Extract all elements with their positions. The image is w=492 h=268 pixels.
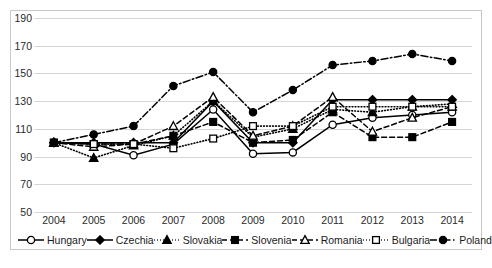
point-bulgaria-2010	[289, 123, 296, 130]
legend-marker-czechia	[96, 236, 104, 244]
point-bulgaria-2006	[130, 141, 137, 148]
legend-item-bulgaria[interactable]: Bulgaria	[363, 234, 431, 246]
point-bulgaria-2009	[250, 123, 257, 130]
y-tick-label-150: 150	[14, 67, 32, 79]
legend-item-poland[interactable]: Poland	[430, 234, 492, 246]
legend-item-hungary[interactable]: Hungary	[18, 234, 87, 246]
point-romania-2008	[209, 93, 217, 101]
legend-item-slovakia[interactable]: Slovakia	[154, 234, 223, 246]
legend-item-romania[interactable]: Romania	[292, 234, 363, 246]
y-tick-label-90: 90	[20, 151, 32, 163]
point-poland-2013	[409, 50, 416, 57]
chart-legend: HungaryCzechiaSlovakiaSloveniaRomaniaBul…	[12, 232, 480, 248]
point-poland-2012	[369, 57, 376, 64]
y-tick-label-50: 50	[20, 206, 32, 218]
chart-figure: 507090110130150170190 200420052006200720…	[0, 0, 492, 268]
legend-swatch-open-triangle-icon	[292, 234, 318, 246]
y-tick-label-110: 110	[15, 123, 32, 135]
legend-marker-slovenia	[232, 237, 239, 244]
x-tick-label-2004: 2004	[42, 214, 65, 226]
legend-swatch-open-circle-icon	[18, 234, 44, 246]
legend-swatch-filled-triangle-icon	[154, 234, 180, 246]
point-slovenia-2010	[289, 137, 296, 144]
point-slovenia-2013	[409, 134, 416, 141]
legend-item-czechia[interactable]: Czechia	[87, 234, 154, 246]
legend-label: Bulgaria	[392, 234, 431, 246]
point-poland-2007	[170, 82, 177, 89]
x-tick-label-2011: 2011	[321, 214, 344, 226]
point-romania-2012	[368, 127, 376, 135]
y-tick-label-130: 130	[14, 95, 32, 107]
point-poland-2004	[50, 139, 57, 146]
point-bulgaria-2011	[329, 103, 336, 110]
point-poland-2014	[448, 57, 455, 64]
y-axis: 507090110130150170190	[10, 18, 32, 212]
series-canvas	[34, 18, 472, 212]
point-bulgaria-2012	[369, 103, 376, 110]
point-bulgaria-2013	[409, 103, 416, 110]
y-tick-label-70: 70	[20, 178, 32, 190]
point-poland-2006	[130, 122, 137, 129]
legend-label: Poland	[459, 234, 492, 246]
point-bulgaria-2008	[210, 135, 217, 142]
point-poland-2010	[289, 86, 296, 93]
point-bulgaria-2007	[170, 145, 177, 152]
point-poland-2005	[90, 131, 97, 138]
point-romania-2007	[169, 122, 177, 130]
x-axis: 2004200520062007200820092010201120122013…	[34, 214, 472, 230]
x-tick-label-2005: 2005	[82, 214, 105, 226]
point-poland-2008	[210, 68, 217, 75]
legend-marker-poland	[440, 236, 447, 243]
legend-label: Hungary	[47, 234, 87, 246]
point-hungary-2010	[289, 149, 296, 156]
legend-label: Czechia	[116, 234, 154, 246]
x-tick-label-2006: 2006	[122, 214, 145, 226]
x-tick-label-2013: 2013	[401, 214, 424, 226]
legend-marker-slovakia	[162, 236, 170, 244]
point-hungary-2011	[329, 121, 336, 128]
y-tick-label-190: 190	[14, 12, 32, 24]
point-poland-2009	[249, 109, 256, 116]
x-tick-label-2008: 2008	[201, 214, 224, 226]
point-slovenia-2014	[449, 119, 456, 126]
point-bulgaria-2005	[90, 141, 97, 148]
legend-item-slovenia[interactable]: Slovenia	[222, 234, 291, 246]
point-romania-2011	[328, 93, 336, 101]
legend-swatch-filled-circle-icon	[430, 234, 456, 246]
y-tick-label-170: 170	[14, 40, 32, 52]
plot-area	[34, 18, 472, 212]
legend-label: Slovenia	[251, 234, 291, 246]
legend-swatch-filled-diamond-icon	[87, 234, 113, 246]
point-slovenia-2008	[210, 119, 217, 126]
point-hungary-2006	[130, 152, 137, 159]
x-tick-label-2012: 2012	[361, 214, 384, 226]
point-hungary-2008	[210, 106, 217, 113]
x-tick-label-2014: 2014	[440, 214, 463, 226]
point-bulgaria-2014	[449, 103, 456, 110]
x-tick-label-2007: 2007	[162, 214, 185, 226]
gridline-50	[34, 212, 472, 213]
point-slovenia-2009	[250, 139, 257, 146]
point-hungary-2009	[249, 150, 256, 157]
legend-marker-hungary	[27, 236, 34, 243]
legend-label: Slovakia	[183, 234, 223, 246]
legend-label: Romania	[321, 234, 363, 246]
legend-swatch-open-square-icon	[363, 234, 389, 246]
x-tick-label-2009: 2009	[241, 214, 264, 226]
point-slovenia-2007	[170, 132, 177, 139]
legend-swatch-filled-square-icon	[222, 234, 248, 246]
x-tick-label-2010: 2010	[281, 214, 304, 226]
point-poland-2011	[329, 62, 336, 69]
legend-marker-bulgaria	[372, 237, 379, 244]
